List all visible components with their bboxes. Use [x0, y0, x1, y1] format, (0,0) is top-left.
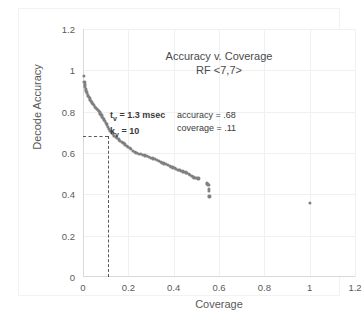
- x-tick-label: 0: [80, 282, 85, 293]
- chart-frame: 00.20.40.60.811.2 00.20.40.60.811.2 Accu…: [18, 8, 340, 296]
- leader-line-horizontal: [83, 136, 108, 137]
- y-tick-label: 0.4: [41, 189, 75, 200]
- annotation-kv-value: = 10: [119, 126, 139, 136]
- y-tick-label: 0: [41, 272, 75, 283]
- gridline-horizontal: [83, 153, 355, 154]
- x-axis-title: Coverage: [83, 298, 355, 310]
- annotation-tv-value: = 1.3 msec: [117, 110, 165, 120]
- gridline-horizontal: [83, 236, 355, 237]
- y-tick-label: 0.6: [41, 148, 75, 159]
- x-axis-line: [83, 276, 355, 277]
- gridline-horizontal: [83, 29, 355, 30]
- y-tick-label: 1.2: [41, 24, 75, 35]
- x-tick-label: 0.2: [122, 282, 135, 293]
- y-axis-title: Decode Accuracy: [31, 52, 43, 162]
- x-tick-label: 0.6: [212, 282, 225, 293]
- annotation-accuracy: accuracy = .68: [177, 109, 236, 122]
- gridline-horizontal: [83, 194, 355, 195]
- gridline-vertical: [355, 29, 356, 277]
- annotation-results: accuracy = .68 coverage = .11: [177, 109, 236, 135]
- x-tick-label: 0.8: [258, 282, 271, 293]
- annotation-kv: kv = 10: [110, 125, 165, 141]
- x-tick-label: 1.2: [348, 282, 361, 293]
- y-tick-label: 1: [41, 65, 75, 76]
- chart-title-line2: RF <7,7>: [83, 63, 355, 77]
- chart-title: Accuracy v. Coverage RF <7,7>: [83, 49, 355, 77]
- annotation-tv: tv = 1.3 msec: [110, 109, 165, 125]
- y-tick-label: 0.2: [41, 230, 75, 241]
- leader-line-vertical: [108, 136, 109, 277]
- annotation-parameters: tv = 1.3 msec kv = 10: [110, 109, 165, 141]
- x-tick-label: 1: [307, 282, 312, 293]
- chart-title-line1: Accuracy v. Coverage: [83, 49, 355, 63]
- annotation-coverage: coverage = .11: [177, 122, 236, 135]
- x-tick-label: 0.4: [167, 282, 180, 293]
- y-tick-label: 0.8: [41, 106, 75, 117]
